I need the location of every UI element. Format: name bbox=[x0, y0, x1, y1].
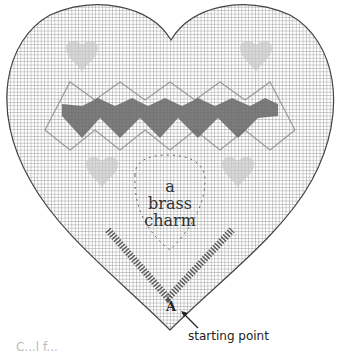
point-a-label: A bbox=[166, 299, 176, 314]
charm-label: a brass charm bbox=[140, 178, 200, 229]
needlepoint-heart-chart: a brass charm A starting point C...l f..… bbox=[0, 0, 342, 351]
arrow-icon bbox=[181, 311, 198, 328]
heart-outline bbox=[7, 5, 334, 330]
cutoff-caption: C...l f... bbox=[16, 340, 58, 351]
starting-point-label: starting point bbox=[188, 329, 269, 343]
